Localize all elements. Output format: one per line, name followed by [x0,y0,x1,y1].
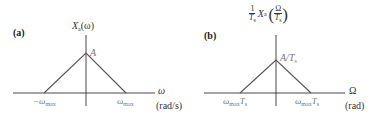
panel-b-triangle-spectrum [240,60,311,93]
panel-a-y-axis-label: Xa(ω) [72,21,94,32]
panel-b-x-axis-unit: (rad) [345,101,364,111]
panel-a-left-tick-label: −ωmax [33,97,56,107]
panel-b-peak-label: A/Ts [280,53,297,64]
panel-b-right-tick-label: ωmaxTs [295,97,319,107]
panel-b-scale-fraction: 1 Ts [249,5,256,24]
panel-b-label: (b) [204,31,216,41]
panel-a-right-tick-label: ωmax [117,97,134,107]
spectrum-diagram [0,0,375,136]
panel-a-x-axis-unit: (rad/s) [156,101,182,111]
panel-b-argument-fraction: Ω Ts [274,5,282,24]
panel-b-x-axis-symbol: Ω [349,86,356,96]
panel-a-peak-label: A [90,48,96,58]
panel-a-triangle-spectrum [44,53,126,93]
panel-b-left-tick-label: ωmaxTs [223,97,247,107]
panel-a-label: (a) [13,28,25,38]
panel-b-y-axis-label: 1 Ts Xa ( Ω Ts ) [249,5,288,24]
panel-a-x-axis-symbol: ω [158,86,165,96]
